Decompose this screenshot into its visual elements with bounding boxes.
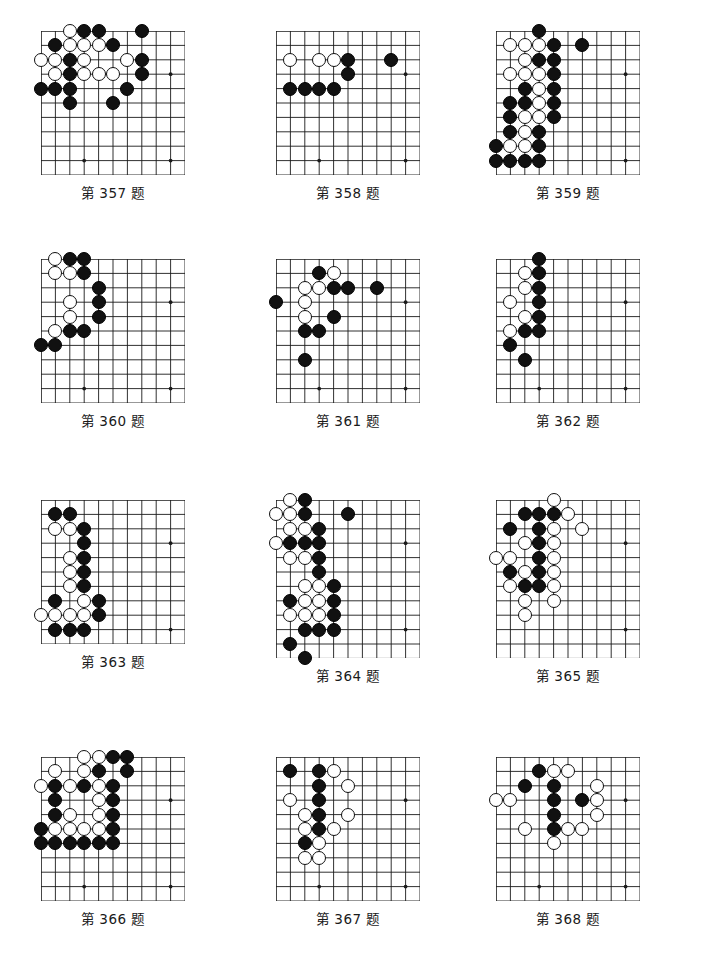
go-board[interactable] bbox=[276, 31, 420, 175]
black-stone[interactable] bbox=[547, 779, 561, 793]
black-stone[interactable] bbox=[106, 779, 120, 793]
white-stone[interactable] bbox=[518, 310, 532, 324]
black-stone[interactable] bbox=[92, 281, 106, 295]
white-stone[interactable] bbox=[312, 594, 326, 608]
black-stone[interactable] bbox=[547, 808, 561, 822]
black-stone[interactable] bbox=[77, 779, 91, 793]
black-stone[interactable] bbox=[532, 281, 546, 295]
go-board[interactable] bbox=[41, 500, 185, 644]
white-stone[interactable] bbox=[298, 594, 312, 608]
black-stone[interactable] bbox=[312, 82, 326, 96]
white-stone[interactable] bbox=[341, 808, 355, 822]
black-stone[interactable] bbox=[298, 82, 312, 96]
white-stone[interactable] bbox=[63, 310, 77, 324]
white-stone[interactable] bbox=[63, 808, 77, 822]
black-stone[interactable] bbox=[532, 154, 546, 168]
black-stone[interactable] bbox=[298, 651, 312, 665]
white-stone[interactable] bbox=[312, 851, 326, 865]
white-stone[interactable] bbox=[63, 779, 77, 793]
white-stone[interactable] bbox=[298, 822, 312, 836]
white-stone[interactable] bbox=[532, 82, 546, 96]
black-stone[interactable] bbox=[312, 779, 326, 793]
black-stone[interactable] bbox=[327, 608, 341, 622]
black-stone[interactable] bbox=[106, 808, 120, 822]
black-stone[interactable] bbox=[518, 82, 532, 96]
black-stone[interactable] bbox=[547, 53, 561, 67]
black-stone[interactable] bbox=[489, 154, 503, 168]
white-stone[interactable] bbox=[298, 851, 312, 865]
white-stone[interactable] bbox=[92, 822, 106, 836]
white-stone[interactable] bbox=[518, 125, 532, 139]
white-stone[interactable] bbox=[547, 565, 561, 579]
white-stone[interactable] bbox=[518, 565, 532, 579]
black-stone[interactable] bbox=[547, 96, 561, 110]
black-stone[interactable] bbox=[341, 53, 355, 67]
white-stone[interactable] bbox=[327, 53, 341, 67]
black-stone[interactable] bbox=[312, 522, 326, 536]
white-stone[interactable] bbox=[547, 551, 561, 565]
black-stone[interactable] bbox=[327, 82, 341, 96]
white-stone[interactable] bbox=[92, 67, 106, 81]
go-board[interactable] bbox=[41, 31, 185, 175]
black-stone[interactable] bbox=[532, 522, 546, 536]
go-board[interactable] bbox=[276, 259, 420, 403]
white-stone[interactable] bbox=[34, 779, 48, 793]
white-stone[interactable] bbox=[489, 551, 503, 565]
black-stone[interactable] bbox=[135, 53, 149, 67]
black-stone[interactable] bbox=[106, 822, 120, 836]
black-stone[interactable] bbox=[384, 53, 398, 67]
white-stone[interactable] bbox=[92, 808, 106, 822]
white-stone[interactable] bbox=[63, 522, 77, 536]
black-stone[interactable] bbox=[298, 493, 312, 507]
black-stone[interactable] bbox=[34, 82, 48, 96]
black-stone[interactable] bbox=[327, 623, 341, 637]
white-stone[interactable] bbox=[63, 24, 77, 38]
black-stone[interactable] bbox=[532, 53, 546, 67]
white-stone[interactable] bbox=[92, 750, 106, 764]
white-stone[interactable] bbox=[92, 779, 106, 793]
black-stone[interactable] bbox=[77, 623, 91, 637]
black-stone[interactable] bbox=[547, 67, 561, 81]
white-stone[interactable] bbox=[63, 551, 77, 565]
black-stone[interactable] bbox=[298, 623, 312, 637]
white-stone[interactable] bbox=[298, 295, 312, 309]
black-stone[interactable] bbox=[327, 310, 341, 324]
black-stone[interactable] bbox=[370, 281, 384, 295]
white-stone[interactable] bbox=[298, 808, 312, 822]
white-stone[interactable] bbox=[590, 779, 604, 793]
white-stone[interactable] bbox=[518, 139, 532, 153]
black-stone[interactable] bbox=[298, 324, 312, 338]
black-stone[interactable] bbox=[92, 608, 106, 622]
black-stone[interactable] bbox=[532, 125, 546, 139]
go-board[interactable] bbox=[276, 757, 420, 901]
black-stone[interactable] bbox=[532, 310, 546, 324]
go-board[interactable] bbox=[496, 31, 640, 175]
white-stone[interactable] bbox=[547, 522, 561, 536]
white-stone[interactable] bbox=[34, 53, 48, 67]
black-stone[interactable] bbox=[312, 551, 326, 565]
black-stone[interactable] bbox=[106, 96, 120, 110]
black-stone[interactable] bbox=[312, 808, 326, 822]
white-stone[interactable] bbox=[518, 594, 532, 608]
white-stone[interactable] bbox=[547, 536, 561, 550]
black-stone[interactable] bbox=[327, 594, 341, 608]
white-stone[interactable] bbox=[518, 822, 532, 836]
white-stone[interactable] bbox=[590, 793, 604, 807]
black-stone[interactable] bbox=[547, 793, 561, 807]
go-board[interactable] bbox=[41, 757, 185, 901]
white-stone[interactable] bbox=[63, 295, 77, 309]
white-stone[interactable] bbox=[298, 522, 312, 536]
black-stone[interactable] bbox=[63, 324, 77, 338]
white-stone[interactable] bbox=[298, 608, 312, 622]
white-stone[interactable] bbox=[298, 551, 312, 565]
black-stone[interactable] bbox=[34, 822, 48, 836]
white-stone[interactable] bbox=[63, 822, 77, 836]
white-stone[interactable] bbox=[518, 281, 532, 295]
go-board[interactable] bbox=[496, 500, 640, 658]
black-stone[interactable] bbox=[518, 96, 532, 110]
black-stone[interactable] bbox=[135, 24, 149, 38]
white-stone[interactable] bbox=[63, 565, 77, 579]
black-stone[interactable] bbox=[532, 551, 546, 565]
black-stone[interactable] bbox=[327, 281, 341, 295]
black-stone[interactable] bbox=[518, 154, 532, 168]
